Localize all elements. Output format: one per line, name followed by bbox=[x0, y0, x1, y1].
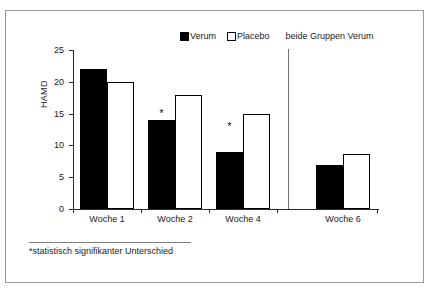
y-tick-label-25: 25 bbox=[54, 46, 64, 55]
bar-placebo-woche-2 bbox=[175, 95, 202, 210]
footnote-text: *statistisch signifikanter Unterschied bbox=[29, 246, 173, 256]
x-tick-3 bbox=[277, 209, 278, 213]
y-tick-20: 20 bbox=[69, 82, 73, 83]
y-tick-label-5: 5 bbox=[59, 173, 64, 182]
legend-label-placebo: Placebo bbox=[237, 31, 270, 41]
x-label-woche-4: Woche 4 bbox=[225, 214, 260, 224]
bar-verum-woche-2 bbox=[148, 120, 175, 209]
x-tick-4 bbox=[377, 209, 378, 213]
x-tick-0 bbox=[73, 209, 74, 213]
bar-verum-woche-4 bbox=[216, 152, 243, 209]
bar-placebo-woche-1 bbox=[107, 82, 134, 209]
bar-placebo-woche-6 bbox=[343, 154, 370, 209]
x-tick-2 bbox=[209, 209, 210, 213]
plot-area: 25 20 15 10 5 0 Woche 1 * Woche 2 * bbox=[73, 50, 379, 209]
y-tick-10: 10 bbox=[69, 145, 73, 146]
legend-label-verum: Verum bbox=[190, 31, 216, 41]
group-divider-line bbox=[288, 49, 289, 209]
y-tick-label-10: 10 bbox=[54, 141, 64, 150]
hollow-square-icon bbox=[227, 32, 236, 41]
significance-star-woche-4: * bbox=[228, 122, 232, 132]
y-tick-5: 5 bbox=[69, 177, 73, 178]
y-axis-label: HAMD bbox=[39, 80, 49, 108]
x-label-woche-6: Woche 6 bbox=[325, 214, 360, 224]
figure-root: Verum Placebo beide Gruppen Verum HAMD 2… bbox=[0, 0, 432, 293]
x-axis-line bbox=[73, 209, 379, 210]
legend-entry-placebo: Placebo bbox=[227, 31, 270, 41]
bar-placebo-woche-4 bbox=[243, 114, 270, 209]
y-tick-label-0: 0 bbox=[59, 205, 64, 214]
filled-square-icon bbox=[180, 32, 189, 41]
x-tick-1 bbox=[141, 209, 142, 213]
y-tick-25: 25 bbox=[69, 50, 73, 51]
chart-legend: Verum Placebo beide Gruppen Verum bbox=[180, 29, 374, 43]
x-label-woche-2: Woche 2 bbox=[157, 214, 192, 224]
x-label-woche-1: Woche 1 bbox=[89, 214, 124, 224]
y-axis-line bbox=[73, 50, 74, 209]
y-tick-label-15: 15 bbox=[54, 109, 64, 118]
y-tick-label-20: 20 bbox=[54, 77, 64, 86]
y-tick-15: 15 bbox=[69, 114, 73, 115]
legend-group-note: beide Gruppen Verum bbox=[286, 31, 374, 41]
legend-entry-verum: Verum bbox=[180, 31, 216, 41]
bar-verum-woche-1 bbox=[80, 69, 107, 209]
bar-verum-woche-6 bbox=[316, 165, 343, 210]
footnote-divider bbox=[29, 242, 191, 243]
significance-star-woche-2: * bbox=[160, 109, 164, 119]
